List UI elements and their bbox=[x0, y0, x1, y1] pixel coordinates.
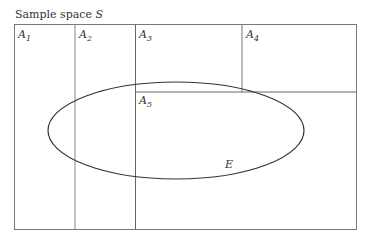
label-event-e: E bbox=[224, 158, 233, 171]
label-a2: A2 bbox=[78, 28, 92, 43]
diagram-title: Sample space S bbox=[15, 8, 104, 21]
sample-space-rect bbox=[15, 25, 357, 230]
label-a3: A3 bbox=[138, 28, 152, 43]
label-a1: A1 bbox=[17, 28, 31, 43]
venn-diagram: Sample space S A1 A2 A3 A4 A5 E bbox=[0, 0, 372, 235]
event-e-ellipse bbox=[48, 82, 304, 179]
label-a5: A5 bbox=[138, 94, 152, 109]
label-a4: A4 bbox=[245, 28, 259, 43]
